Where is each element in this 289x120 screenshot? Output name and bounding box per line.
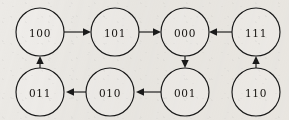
node-110[interactable]: 110 bbox=[232, 68, 280, 116]
edge-000-to-001 bbox=[181, 56, 188, 68]
node-label: 111 bbox=[245, 27, 267, 39]
arrowhead-icon bbox=[209, 28, 217, 35]
arrowhead-icon bbox=[66, 88, 74, 95]
node-label: 001 bbox=[174, 87, 196, 99]
node-100[interactable]: 100 bbox=[16, 8, 64, 56]
arrowhead-icon bbox=[83, 28, 91, 35]
node-001[interactable]: 001 bbox=[161, 68, 209, 116]
edge-110-to-111 bbox=[252, 56, 259, 68]
node-group: 100 101 000 111 011 010 bbox=[16, 8, 280, 116]
state-transition-graph: 100 101 000 111 011 010 bbox=[0, 0, 289, 120]
edge-010-to-011 bbox=[66, 88, 86, 95]
node-label: 000 bbox=[174, 27, 196, 39]
node-111[interactable]: 111 bbox=[232, 8, 280, 56]
arrowhead-icon bbox=[36, 56, 43, 64]
node-000[interactable]: 000 bbox=[161, 8, 209, 56]
edge-101-to-000 bbox=[139, 28, 161, 35]
node-label: 110 bbox=[245, 87, 267, 99]
node-label: 011 bbox=[29, 87, 51, 99]
edge-group bbox=[36, 28, 259, 95]
edge-001-to-010 bbox=[136, 88, 161, 95]
arrowhead-icon bbox=[136, 88, 144, 95]
node-label: 100 bbox=[29, 27, 51, 39]
edge-111-to-000 bbox=[209, 28, 232, 35]
node-label: 101 bbox=[104, 27, 126, 39]
node-101[interactable]: 101 bbox=[91, 8, 139, 56]
edge-100-to-101 bbox=[64, 28, 91, 35]
edge-011-to-100 bbox=[36, 56, 43, 68]
arrowhead-icon bbox=[153, 28, 161, 35]
arrowhead-icon bbox=[252, 56, 259, 64]
node-label: 010 bbox=[99, 87, 121, 99]
node-010[interactable]: 010 bbox=[86, 68, 134, 116]
arrowhead-icon bbox=[181, 60, 188, 68]
diagram-canvas: 100 101 000 111 011 010 bbox=[0, 0, 289, 120]
node-011[interactable]: 011 bbox=[16, 68, 64, 116]
